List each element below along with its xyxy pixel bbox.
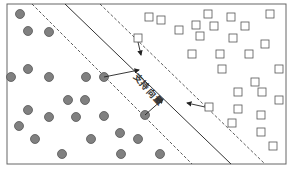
circle-point [87, 135, 96, 144]
circle-point [117, 150, 126, 159]
square-point [269, 142, 277, 150]
square-point [192, 21, 200, 29]
square-point [175, 26, 183, 34]
margin-line [32, 4, 192, 164]
square-point [228, 119, 236, 127]
square-point [216, 50, 224, 58]
square-point [145, 13, 153, 21]
circle-point [16, 10, 25, 19]
square-point [258, 88, 266, 96]
square-point [261, 40, 269, 48]
square-point [234, 105, 242, 113]
circle-point [81, 96, 90, 105]
square-point [204, 10, 212, 18]
square-point [227, 13, 235, 21]
circle-point [72, 113, 81, 122]
arrow-icon [138, 42, 141, 55]
square-point [257, 128, 265, 136]
square-point [245, 50, 253, 58]
circle-point [156, 150, 165, 159]
square-point [257, 111, 265, 119]
square-point [210, 22, 218, 30]
square-point [188, 50, 196, 58]
circle-point [134, 135, 143, 144]
square-point [251, 78, 259, 86]
circle-point [100, 112, 109, 121]
circle-point [31, 135, 40, 144]
square-point [134, 34, 142, 42]
circle-point [7, 73, 16, 82]
square-point [266, 10, 274, 18]
circle-point [82, 73, 91, 82]
circle-point [116, 129, 125, 138]
circle-point [15, 122, 24, 131]
circle-point [24, 106, 33, 115]
class-squares [134, 10, 283, 150]
circle-point [45, 73, 54, 82]
circle-point [45, 113, 54, 122]
square-point [241, 22, 249, 30]
square-point [229, 34, 237, 42]
circle-point [24, 27, 33, 36]
square-point [234, 88, 242, 96]
square-point [196, 32, 204, 40]
square-point [205, 103, 213, 111]
square-point [157, 16, 165, 24]
square-point [275, 65, 283, 73]
circle-point [58, 150, 67, 159]
square-point [275, 96, 283, 104]
circle-point [45, 28, 54, 37]
circle-point [64, 96, 73, 105]
square-point [218, 65, 226, 73]
circle-point [24, 65, 33, 74]
